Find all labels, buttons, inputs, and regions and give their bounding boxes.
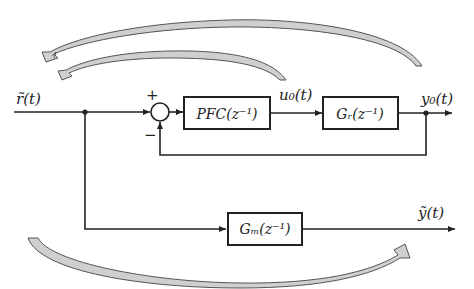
curved-arrow-top-inner — [58, 51, 286, 80]
plus-sign: + — [146, 86, 159, 104]
plant-label: Gᵣ(z⁻¹) — [336, 106, 383, 122]
minus-sign: − — [144, 126, 157, 144]
model-output-label: ỹ(t) — [417, 204, 444, 222]
controller-label: PFC(z⁻¹) — [195, 106, 257, 122]
model-label: Gₘ(z⁻¹) — [239, 221, 290, 237]
input-label: r̃(t) — [16, 90, 41, 108]
summing-junction — [151, 103, 169, 121]
block-diagram: + − PFC(z⁻¹) u₀(t) Gᵣ(z⁻¹) y₀(t) r̃(t) G… — [0, 0, 474, 289]
u0-label: u₀(t) — [279, 86, 313, 104]
curved-arrow-bottom — [28, 238, 410, 288]
y0-label: y₀(t) — [420, 90, 453, 108]
